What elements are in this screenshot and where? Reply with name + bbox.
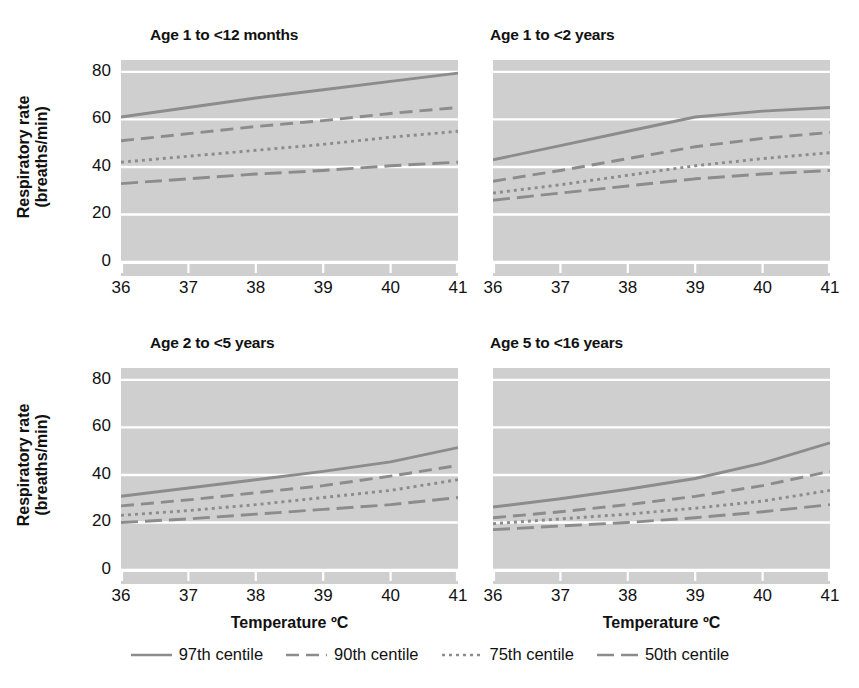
y-tick-label: 0 <box>59 251 111 271</box>
x-tick-label: 36 <box>468 586 518 606</box>
x-tick-label: 41 <box>805 278 855 298</box>
x-tick-label: 39 <box>298 278 348 298</box>
x-tick-label: 38 <box>231 278 281 298</box>
x-tick-label: 37 <box>163 278 213 298</box>
y-axis-title-line-2: (breaths/min) <box>33 42 51 272</box>
x-tick-label: 38 <box>231 586 281 606</box>
chart-legend: 97th centile90th centile75th centile50th… <box>0 645 859 664</box>
x-tick-label: 39 <box>298 586 348 606</box>
y-tick-label: 80 <box>59 61 111 81</box>
y-axis-title-line-2: (breaths/min) <box>33 350 51 580</box>
legend-label: 50th centile <box>645 645 729 664</box>
legend-line-swatch <box>130 649 172 661</box>
panel-title: Age 1 to <12 months <box>150 26 298 44</box>
x-tick-label: 39 <box>670 278 720 298</box>
y-tick-label: 40 <box>59 464 111 484</box>
y-axis-title: Respiratory rate(breaths/min) <box>15 350 51 580</box>
x-tick-label: 40 <box>366 586 416 606</box>
legend-label: 97th centile <box>179 645 263 664</box>
x-tick-label: 37 <box>535 278 585 298</box>
x-axis-title: Temperature ºC <box>208 614 372 632</box>
legend-item: 97th centile <box>130 645 263 664</box>
plot-area <box>121 60 458 276</box>
plot-area <box>493 368 830 584</box>
y-axis-title-line-1: Respiratory rate <box>15 350 33 580</box>
legend-item: 50th centile <box>596 645 729 664</box>
x-tick-label: 37 <box>163 586 213 606</box>
x-tick-label: 37 <box>535 586 585 606</box>
panel-title: Age 2 to <5 years <box>150 334 275 352</box>
x-tick-label: 40 <box>738 586 788 606</box>
y-tick-label: 20 <box>59 511 111 531</box>
x-tick-label: 36 <box>96 278 146 298</box>
legend-line-swatch <box>596 649 638 661</box>
panel-title: Age 5 to <16 years <box>490 334 623 352</box>
x-tick-label: 40 <box>366 278 416 298</box>
x-tick-label: 36 <box>96 586 146 606</box>
x-tick-label: 36 <box>468 278 518 298</box>
legend-item: 75th centile <box>441 645 574 664</box>
x-tick-label: 40 <box>738 278 788 298</box>
figure-respiratory-rate-centiles: Age 1 to <12 months020406080Respiratory … <box>0 0 859 688</box>
legend-line-swatch <box>441 649 483 661</box>
y-tick-label: 60 <box>59 416 111 436</box>
legend-label: 75th centile <box>490 645 574 664</box>
x-tick-label: 38 <box>603 586 653 606</box>
y-tick-label: 60 <box>59 108 111 128</box>
x-tick-label: 41 <box>805 586 855 606</box>
plot-area <box>493 60 830 276</box>
legend-item: 90th centile <box>285 645 418 664</box>
y-tick-label: 20 <box>59 203 111 223</box>
legend-label: 90th centile <box>334 645 418 664</box>
y-tick-label: 0 <box>59 559 111 579</box>
x-tick-label: 38 <box>603 278 653 298</box>
x-tick-label: 39 <box>670 586 720 606</box>
plot-area <box>121 368 458 584</box>
panel-title: Age 1 to <2 years <box>490 26 615 44</box>
y-tick-label: 40 <box>59 156 111 176</box>
y-axis-title-line-1: Respiratory rate <box>15 42 33 272</box>
y-tick-label: 80 <box>59 369 111 389</box>
y-axis-title: Respiratory rate(breaths/min) <box>15 42 51 272</box>
legend-line-swatch <box>285 649 327 661</box>
x-axis-title: Temperature ºC <box>580 614 744 632</box>
